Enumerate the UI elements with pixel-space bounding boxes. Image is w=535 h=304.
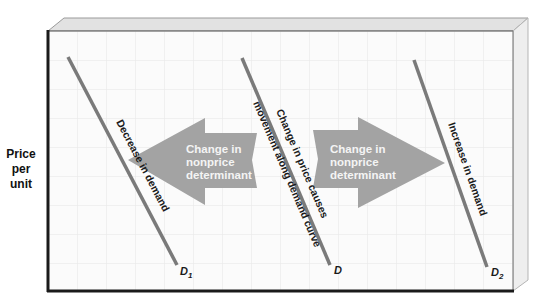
d2-label-sub: 2 xyxy=(498,272,504,281)
box-right-bevel xyxy=(513,18,528,291)
box-top-bevel xyxy=(48,18,528,31)
left-arrow-text-line-3: determinant xyxy=(186,169,252,181)
left-arrow-text-line-1: Change in xyxy=(186,143,242,155)
d2-label-main: D xyxy=(491,266,499,278)
d1-label-main: D xyxy=(180,265,188,277)
d-label-main: D xyxy=(334,264,342,276)
d-label: D xyxy=(334,264,342,276)
demand-shift-diagram: Price per unit Change in nonprice determ… xyxy=(0,0,535,304)
right-arrow-text-line-3: determinant xyxy=(330,169,396,181)
right-arrow-text-line-2: nonprice xyxy=(330,156,379,168)
right-arrow-text-line-1: Change in xyxy=(330,143,386,155)
diagram-canvas: Change in nonprice determinant Change in… xyxy=(0,0,535,304)
left-arrow-text-line-2: nonprice xyxy=(186,156,235,168)
d1-label-sub: 1 xyxy=(188,271,193,280)
